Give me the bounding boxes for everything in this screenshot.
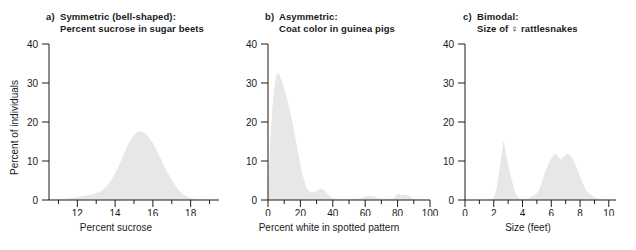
y-tick-label: 10 (443, 156, 455, 167)
y-tick-label: 0 (448, 195, 454, 206)
xlabel-b: Percent white in spotted pattern (218, 222, 440, 233)
x-tick-label: 16 (147, 208, 159, 216)
y-tick-label: 0 (32, 195, 38, 206)
x-tick-label: 4 (520, 208, 526, 216)
curve-c (465, 141, 616, 200)
chart-svg-b: 010203040 020406080100 (218, 36, 440, 216)
panel-b-heading: b) Asymmetric: Coat color in guinea pigs (265, 11, 395, 34)
panel-a-title-line2: Percent sucrose in sugar beets (60, 23, 204, 35)
chart-svg-a: 010203040 12141618 (0, 36, 232, 216)
y-ticks-b: 010203040 (246, 39, 268, 206)
plot-area-a: 010203040 12141618 (0, 36, 232, 216)
ylabel-a: Percent of individuals (9, 48, 20, 208)
panel-b-title-line1: Asymmetric: (279, 11, 395, 23)
y-tick-label: 10 (246, 156, 258, 167)
x-tick-label: 8 (577, 208, 583, 216)
xlabel-c: Size (feet) (420, 222, 636, 233)
panel-a-letter: a) (46, 11, 60, 23)
axes-c (465, 44, 616, 200)
x-tick-label: 10 (603, 208, 615, 216)
x-ticks-b: 020406080100 (265, 200, 439, 216)
panel-c-title-line1: Bimodal: (477, 11, 578, 23)
panel-bimodal: c) Bimodal: Size of ♀ rattlesnakes 01020… (420, 0, 636, 250)
x-tick-label: 20 (295, 208, 307, 216)
x-ticks-c: 0246810 (462, 200, 615, 216)
panel-b-title-line2: Coat color in guinea pigs (279, 23, 395, 35)
x-tick-label: 60 (360, 208, 372, 216)
x-tick-label: 40 (327, 208, 339, 216)
y-ticks-c: 010203040 (443, 39, 465, 206)
y-tick-label: 30 (246, 78, 258, 89)
y-tick-label: 30 (443, 78, 455, 89)
y-ticks-a: 010203040 (27, 39, 49, 206)
x-tick-label: 0 (265, 208, 271, 216)
panel-a-title-line1: Symmetric (bell-shaped): (60, 11, 204, 23)
x-tick-label: 0 (462, 208, 468, 216)
y-tick-label: 40 (246, 39, 258, 50)
panel-a-heading: a) Symmetric (bell-shaped): Percent sucr… (46, 11, 204, 34)
curve-a (49, 131, 219, 200)
panel-c-heading: c) Bimodal: Size of ♀ rattlesnakes (463, 11, 578, 34)
panel-symmetric: a) Symmetric (bell-shaped): Percent sucr… (0, 0, 232, 250)
plot-area-c: 010203040 0246810 (420, 36, 636, 216)
y-tick-label: 20 (27, 117, 39, 128)
curve-b (268, 73, 430, 200)
x-tick-label: 80 (392, 208, 404, 216)
y-tick-label: 20 (443, 117, 455, 128)
y-tick-label: 40 (27, 39, 39, 50)
y-tick-label: 30 (27, 78, 39, 89)
chart-svg-c: 010203040 0246810 (420, 36, 636, 216)
x-tick-label: 12 (72, 208, 84, 216)
panel-b-letter: b) (265, 11, 279, 23)
panel-asymmetric: b) Asymmetric: Coat color in guinea pigs… (218, 0, 440, 250)
panel-c-title-line2: Size of ♀ rattlesnakes (477, 23, 578, 35)
y-tick-label: 10 (27, 156, 39, 167)
x-tick-label: 6 (549, 208, 555, 216)
panel-c-letter: c) (463, 11, 477, 23)
x-tick-label: 14 (110, 208, 122, 216)
xlabel-a: Percent sucrose (0, 222, 232, 233)
y-tick-label: 20 (246, 117, 258, 128)
y-tick-label: 40 (443, 39, 455, 50)
plot-area-b: 010203040 020406080100 (218, 36, 440, 216)
x-ticks-a: 12141618 (58, 200, 209, 216)
x-tick-label: 2 (491, 208, 497, 216)
y-tick-label: 0 (251, 195, 257, 206)
x-tick-label: 18 (185, 208, 197, 216)
distribution-shapes-figure: a) Symmetric (bell-shaped): Percent sucr… (0, 0, 636, 250)
